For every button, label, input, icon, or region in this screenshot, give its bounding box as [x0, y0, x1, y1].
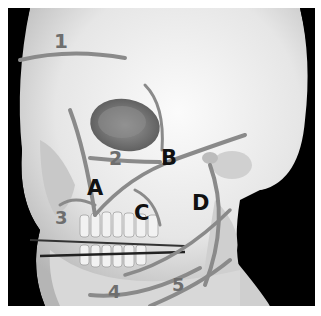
ct-skull-image: 1 2 3 4 5 A B C D: [8, 8, 315, 306]
label-C: C: [134, 201, 149, 225]
label-3: 3: [55, 207, 68, 228]
skull-rendering: 1 2 3 4 5 A B C D: [8, 8, 315, 306]
label-4: 4: [108, 281, 121, 302]
label-D: D: [192, 191, 209, 215]
label-B: B: [161, 146, 177, 170]
label-A: A: [87, 176, 104, 200]
label-1: 1: [54, 29, 68, 53]
label-5: 5: [172, 274, 185, 295]
label-2: 2: [109, 147, 122, 169]
